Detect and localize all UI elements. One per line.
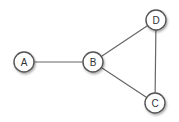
node-b-label: B bbox=[90, 57, 97, 68]
node-c-label: C bbox=[151, 98, 158, 109]
edge-b-c bbox=[93, 62, 155, 103]
edge-b-d bbox=[93, 20, 156, 62]
node-a: A bbox=[14, 52, 34, 72]
node-a-label: A bbox=[21, 57, 28, 68]
node-c: C bbox=[145, 93, 165, 113]
edge-d-c bbox=[155, 20, 156, 103]
node-d: D bbox=[146, 10, 166, 30]
node-b: B bbox=[83, 52, 103, 72]
graph-diagram: A B D C bbox=[0, 0, 179, 122]
node-d-label: D bbox=[152, 15, 159, 26]
